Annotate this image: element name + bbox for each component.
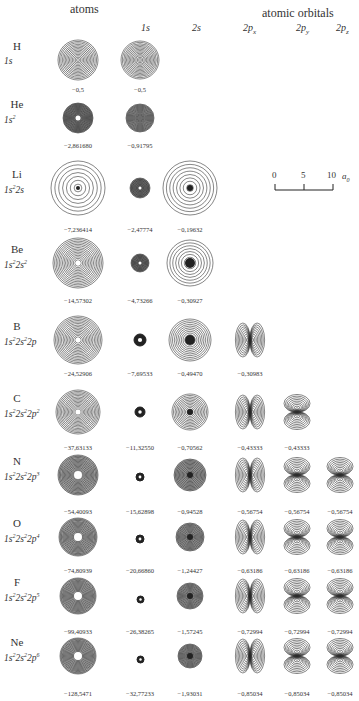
atom-energy-be: −14,57302 xyxy=(48,297,108,304)
orbital-2pz-n xyxy=(325,455,355,499)
orbital-2px-energy-b: −0,30983 xyxy=(220,370,280,377)
row-config-li: 1s22s xyxy=(4,184,24,195)
atomic-orbitals-header: atomic orbitals xyxy=(262,6,334,21)
row-element-he: He xyxy=(2,98,32,110)
scale-unit: a0 xyxy=(342,171,350,183)
atom-energy-o: −74,80939 xyxy=(48,567,108,574)
atom-energy-c: −37,63133 xyxy=(48,444,108,451)
atom-density-be xyxy=(51,236,105,294)
orbital-2px-b xyxy=(233,321,267,363)
orbital-1s-energy-h: −0,5 xyxy=(110,86,170,93)
orbital-2pz-energy-f: −0,72994 xyxy=(310,628,359,635)
orbital-2py-ne xyxy=(282,636,312,680)
atom-density-h xyxy=(56,38,100,86)
orbital-2px-n xyxy=(233,456,267,498)
row-element-n: N xyxy=(2,455,32,467)
orbital-2pz-o xyxy=(325,517,355,561)
row-config-c: 1s22s22p2 xyxy=(4,408,39,419)
column-header-1s: 1s xyxy=(141,22,150,33)
orbital-1s-n xyxy=(134,469,146,487)
atom-energy-ne: −128,5471 xyxy=(48,690,108,697)
orbital-1s-li xyxy=(128,176,152,204)
orbital-2s-energy-n: −0,94528 xyxy=(160,508,220,515)
orbital-2s-c xyxy=(170,392,210,436)
atom-density-o xyxy=(57,516,99,562)
orbital-2px-f xyxy=(233,577,267,619)
atoms-header: atoms xyxy=(70,2,99,17)
orbital-2s-energy-b: −0,49470 xyxy=(160,370,220,377)
atom-density-ne xyxy=(58,636,98,680)
orbital-2py-f xyxy=(282,576,312,620)
column-header-2py: 2py xyxy=(296,22,309,36)
row-config-h: 1s xyxy=(4,56,12,66)
orbital-2s-energy-li: −0,19632 xyxy=(160,226,220,233)
row-element-b: B xyxy=(2,320,32,332)
orbital-2px-ne xyxy=(233,637,267,679)
atom-density-he xyxy=(61,101,95,139)
orbital-2py-n xyxy=(282,455,312,499)
row-config-be: 1s22s2 xyxy=(4,259,27,270)
row-element-be: Be xyxy=(2,243,32,255)
orbital-2pz-energy-o: −0,63186 xyxy=(310,567,359,574)
atom-energy-li: −7,236414 xyxy=(48,226,108,233)
atom-energy-h: −0,5 xyxy=(48,86,108,93)
row-config-ne: 1s22s22p6 xyxy=(4,652,39,663)
orbital-2s-energy-be: −0,30927 xyxy=(160,297,220,304)
atom-density-n xyxy=(56,453,100,501)
orbital-1s-f xyxy=(135,591,146,609)
row-element-li: Li xyxy=(2,168,32,180)
orbital-2s-energy-c: −0,70562 xyxy=(160,444,220,451)
atom-energy-f: −99,40933 xyxy=(48,628,108,635)
row-element-f: F xyxy=(2,576,32,588)
atom-energy-he: −2,861680 xyxy=(48,142,108,149)
orbital-1s-energy-he: −0,91795 xyxy=(110,142,170,149)
row-config-n: 1s22s22p3 xyxy=(4,471,39,482)
orbital-2pz-energy-n: −0,56754 xyxy=(310,508,359,515)
orbital-2px-c xyxy=(233,393,267,435)
row-config-b: 1s22s22p xyxy=(4,336,36,347)
atom-energy-n: −54,40093 xyxy=(48,508,108,515)
atom-density-b xyxy=(52,314,104,370)
orbital-2pz-ne xyxy=(325,636,355,680)
row-element-ne: Ne xyxy=(2,636,32,648)
row-config-f: 1s22s22p5 xyxy=(4,592,39,603)
atom-density-f xyxy=(58,576,98,620)
atom-density-c xyxy=(54,388,102,440)
orbital-2s-o xyxy=(174,521,206,557)
orbital-1s-be xyxy=(129,252,151,278)
orbital-2pz-f xyxy=(325,576,355,620)
row-element-h: H xyxy=(2,40,32,52)
scale-bar: 0 5 10 a0 xyxy=(270,170,359,200)
column-header-2s: 2s xyxy=(192,22,201,33)
orbital-1s-h xyxy=(119,39,161,85)
orbital-2s-energy-ne: −1,93031 xyxy=(160,690,220,697)
column-header-2pz: 2pz xyxy=(336,22,349,36)
orbital-2s-f xyxy=(175,581,205,615)
scale-tick-0: 0 xyxy=(272,170,277,180)
orbital-2s-li xyxy=(161,159,219,221)
row-config-o: 1s22s22p4 xyxy=(4,533,39,544)
scale-tick-5: 5 xyxy=(301,170,306,180)
scale-tick-10: 10 xyxy=(327,170,336,180)
row-element-c: C xyxy=(2,392,32,404)
row-element-o: O xyxy=(2,517,32,529)
orbital-2s-be xyxy=(165,238,215,292)
orbital-2py-energy-c: −0,43333 xyxy=(267,444,327,451)
orbital-1s-he xyxy=(124,102,156,138)
row-config-he: 1s2 xyxy=(4,114,15,125)
orbital-1s-o xyxy=(134,531,146,549)
orbital-1s-b xyxy=(132,332,148,352)
orbital-1s-ne xyxy=(135,651,146,669)
orbital-2s-energy-o: −1,24427 xyxy=(160,567,220,574)
orbital-2s-ne xyxy=(176,642,204,674)
orbital-2s-energy-f: −1,57245 xyxy=(160,628,220,635)
orbital-2pz-energy-ne: −0,85034 xyxy=(310,690,359,697)
orbital-2py-c xyxy=(282,392,312,436)
orbital-1s-c xyxy=(133,405,147,423)
orbital-2py-o xyxy=(282,517,312,561)
column-header-2px: 2px xyxy=(243,22,256,36)
orbital-2s-b xyxy=(167,317,213,367)
orbital-2s-n xyxy=(172,457,208,497)
orbital-2px-o xyxy=(233,518,267,560)
atom-density-li xyxy=(49,159,107,221)
